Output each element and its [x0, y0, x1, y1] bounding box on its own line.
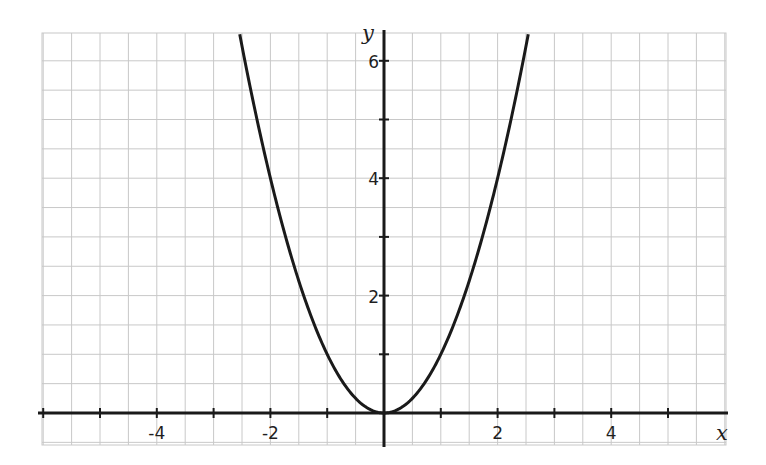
x-tick-label: 2	[492, 423, 503, 443]
tick-labels: -4-224246	[148, 52, 616, 443]
y-tick-label: 6	[368, 52, 379, 72]
parabola-chart: -4-224246 x y	[0, 0, 766, 465]
x-axis-label: x	[716, 421, 728, 445]
y-tick-label: 2	[368, 287, 379, 307]
x-tick-label: -2	[262, 423, 279, 443]
y-axis-label: y	[361, 21, 375, 45]
x-tick-label: -4	[148, 423, 165, 443]
axes	[38, 30, 728, 447]
y-tick-label: 4	[368, 169, 379, 189]
x-tick-label: 4	[606, 423, 617, 443]
